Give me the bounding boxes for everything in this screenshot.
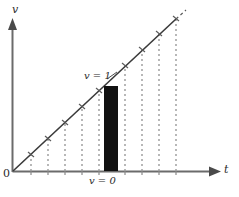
x-axis-label: t bbox=[224, 164, 228, 175]
baseline-value-label: v = 0 bbox=[89, 176, 116, 186]
y-axis bbox=[8, 18, 17, 172]
y-axis-label: v bbox=[12, 4, 18, 15]
droplines-group bbox=[31, 20, 176, 171]
impulse-bar bbox=[104, 86, 118, 171]
origin-label: 0 bbox=[3, 168, 10, 179]
velocity-time-diagram: v t 0 v = 1 v = 0 bbox=[0, 0, 239, 197]
diagram-canvas bbox=[0, 0, 239, 197]
bar-value-label: v = 1 bbox=[84, 71, 111, 81]
